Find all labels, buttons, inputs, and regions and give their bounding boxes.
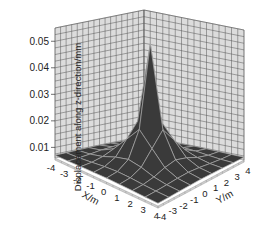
- svg-text:0.02: 0.02: [30, 115, 50, 126]
- x-axis-label: X/m: [80, 189, 101, 207]
- svg-text:0.04: 0.04: [30, 62, 50, 73]
- svg-text:1: 1: [213, 182, 218, 193]
- svg-text:0.05: 0.05: [30, 36, 50, 47]
- svg-text:-1: -1: [190, 194, 198, 205]
- svg-text:3: 3: [235, 171, 240, 182]
- svg-text:3: 3: [141, 204, 146, 215]
- svg-text:-4: -4: [158, 211, 166, 222]
- surface-plot: 0.010.020.030.040.05 -4-3-2-101234X/m -4…: [0, 0, 261, 234]
- z-axis-label: Displacement along z-direction/mm: [72, 43, 83, 191]
- z-axis: 0.010.020.030.040.05: [30, 36, 55, 153]
- svg-text:0.01: 0.01: [30, 142, 50, 153]
- svg-text:0: 0: [101, 186, 106, 197]
- svg-text:0: 0: [202, 188, 207, 199]
- svg-text:-3: -3: [60, 168, 68, 179]
- svg-text:2: 2: [127, 198, 132, 209]
- svg-text:-3: -3: [169, 205, 177, 216]
- svg-text:0.03: 0.03: [30, 89, 50, 100]
- svg-text:2: 2: [224, 177, 229, 188]
- svg-text:-2: -2: [179, 200, 187, 211]
- svg-text:4: 4: [245, 165, 250, 176]
- svg-text:-4: -4: [47, 162, 55, 173]
- svg-text:1: 1: [114, 192, 119, 203]
